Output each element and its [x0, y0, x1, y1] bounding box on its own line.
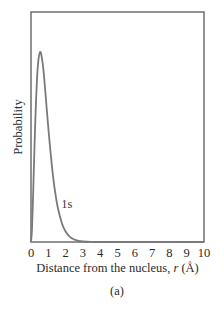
y-axis-label: Probability	[11, 98, 25, 154]
x-axis-tick-labels: 012345678910	[28, 246, 210, 260]
x-tick-label: 6	[132, 246, 138, 260]
figure-caption: (a)	[110, 284, 124, 298]
x-axis-label-prefix: Distance from the nucleus,	[36, 261, 173, 275]
x-tick-label: 10	[198, 246, 211, 260]
x-tick-label: 1	[45, 246, 51, 260]
x-tick-label: 0	[28, 246, 34, 260]
x-tick-label: 3	[80, 246, 86, 260]
x-tick-label: 8	[166, 246, 172, 260]
x-tick-label: 7	[149, 246, 155, 260]
series-1s-label: 1s	[61, 197, 72, 211]
x-tick-label: 4	[97, 246, 104, 260]
series-1s-line	[31, 52, 204, 242]
x-tick-label: 5	[114, 246, 120, 260]
chart: 1s 012345678910 Probability Distance fro…	[0, 0, 224, 309]
x-tick-label: 2	[62, 246, 68, 260]
x-axis-label-units: (Å)	[178, 261, 198, 275]
x-tick-label: 9	[184, 246, 190, 260]
x-axis-label: Distance from the nucleus, r (Å)	[36, 261, 198, 275]
